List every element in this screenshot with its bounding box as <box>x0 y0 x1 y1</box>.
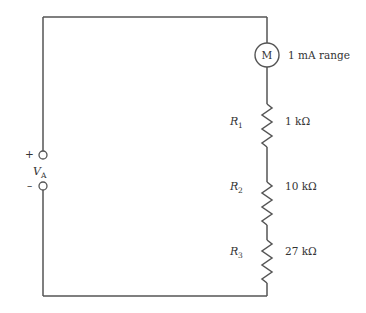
source-subscript: A <box>40 171 47 180</box>
r2-value: 10 kΩ <box>285 180 317 192</box>
r2-subscript: 2 <box>238 186 243 195</box>
resistor-r3-icon <box>262 240 272 283</box>
r3-label: R <box>229 245 238 258</box>
meter-symbol: M <box>262 49 273 61</box>
resistor-r2-icon <box>262 182 272 225</box>
resistor-r1-icon <box>262 104 272 147</box>
r1-label: R <box>229 115 238 128</box>
plus-sign: + <box>25 148 34 160</box>
negative-terminal-icon <box>39 182 47 190</box>
circuit-diagram: M 1 mA range + – V A R 1 1 kΩ R 2 10 kΩ … <box>0 0 366 313</box>
minus-sign: – <box>27 179 32 191</box>
r3-value: 27 kΩ <box>285 245 317 257</box>
r3-subscript: 3 <box>238 251 243 260</box>
r1-subscript: 1 <box>238 121 243 130</box>
r2-label: R <box>229 180 238 193</box>
meter-range-label: 1 mA range <box>288 49 350 61</box>
positive-terminal-icon <box>39 151 47 159</box>
r1-value: 1 kΩ <box>285 115 310 127</box>
